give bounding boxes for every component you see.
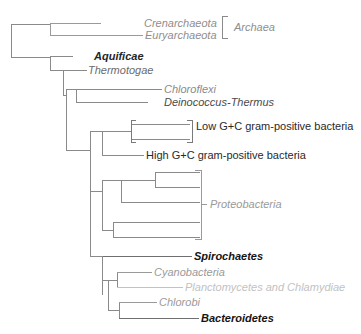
bracket-archaea — [222, 16, 228, 38]
taxon-label-planctomycetes-and-chlamydiae: Planctomycetes and Chlamydiae — [185, 282, 345, 293]
taxon-label-spirochaetes: Spirochaetes — [194, 251, 263, 262]
taxon-label-deinococcus-thermus: Deinococcus-Thermus — [164, 97, 274, 108]
taxon-label-thermotogae: Thermotogae — [88, 65, 153, 76]
group-label-low-gc-gram-positive-bacteria: Low G+C gram-positive bacteria — [196, 121, 353, 132]
group-label-archaea: Archaea — [234, 22, 275, 33]
bracket-proteobacteria — [195, 170, 201, 239]
group-label-proteobacteria: Proteobacteria — [210, 199, 282, 210]
taxon-label-bacteroidetes: Bacteroidetes — [201, 313, 274, 324]
taxon-label-aquificae: Aquificae — [94, 51, 144, 62]
taxon-label-chlorobi: Chlorobi — [159, 297, 200, 308]
taxon-label-euryarchaeota: Euryarchaeota — [145, 30, 217, 41]
phylogenetic-tree-figure: Crenarchaeota Euryarchaeota Aquificae Th… — [0, 0, 361, 334]
taxon-label-cyanobacteria: Cyanobacteria — [154, 267, 225, 278]
taxon-label-high-gc-gram-positive-bacteria: High G+C gram-positive bacteria — [146, 150, 306, 161]
taxon-label-crenarchaeota: Crenarchaeota — [144, 18, 217, 29]
taxon-label-chloroflexi: Chloroflexi — [164, 84, 216, 95]
